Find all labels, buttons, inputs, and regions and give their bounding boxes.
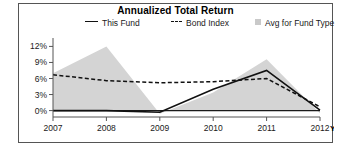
- x-axis-ytd-label: YTD: [330, 124, 334, 133]
- svg-text:2008: 2008: [97, 123, 116, 133]
- y-axis: 0%3%6%9%12%: [30, 38, 53, 117]
- legend-label-bond-index: Bond Index: [186, 18, 229, 28]
- svg-text:YTD: YTD: [330, 124, 334, 133]
- chart-svg: 0%3%6%9%12% 200720082009201020112012 YTD: [19, 32, 334, 143]
- chart-title: Annualized Total Return: [19, 5, 332, 16]
- legend-label-this-fund: This Fund: [102, 18, 140, 28]
- dashed-line-marker-icon: [171, 21, 182, 22]
- annualized-total-return-chart-card: Annualized Total Return This Fund Bond I…: [18, 3, 333, 143]
- svg-text:2007: 2007: [44, 123, 63, 133]
- svg-text:2010: 2010: [204, 123, 223, 133]
- plot-area: 0%3%6%9%12% 200720082009201020112012 YTD: [19, 32, 334, 143]
- gray-square-swatch-icon: [255, 19, 261, 25]
- x-axis: 200720082009201020112012: [44, 117, 330, 133]
- svg-text:0%: 0%: [35, 106, 48, 116]
- svg-text:6%: 6%: [35, 74, 48, 84]
- legend-item-bond-index: Bond Index: [171, 17, 229, 28]
- solid-line-marker-icon: [85, 21, 98, 22]
- svg-text:12%: 12%: [30, 41, 47, 51]
- legend-item-this-fund: This Fund: [85, 17, 140, 28]
- svg-text:2009: 2009: [150, 123, 169, 133]
- svg-text:2011: 2011: [257, 123, 276, 133]
- legend-item-avg-for-fund-type: Avg for Fund Type: [255, 17, 334, 28]
- svg-text:9%: 9%: [35, 57, 48, 67]
- svg-text:2012: 2012: [311, 123, 330, 133]
- svg-text:3%: 3%: [35, 90, 48, 100]
- legend-label-avg-for-fund-type: Avg for Fund Type: [265, 18, 334, 28]
